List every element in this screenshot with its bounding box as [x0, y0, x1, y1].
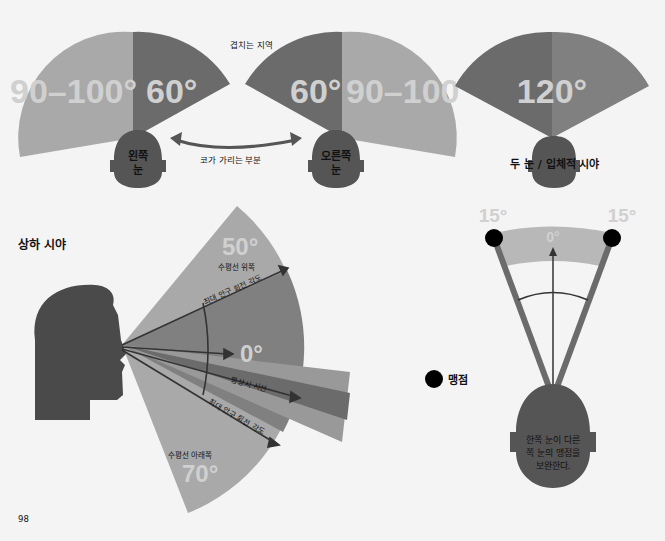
- nose-block-label: 코가 가리는 부분: [200, 155, 261, 165]
- right-eye-label-line2: 눈: [331, 164, 341, 177]
- binocular-caption: 두 눈 / 입체적 시야: [510, 157, 599, 171]
- center-angle-label: 0°: [240, 340, 263, 367]
- left-inner-angle-label: 60°: [146, 72, 197, 110]
- overlap-area-label: 겹치는 지역: [230, 40, 273, 50]
- left-eye-label-line2: 눈: [133, 164, 143, 177]
- right-eye-label-line1: 오른쪽: [321, 150, 351, 163]
- page-number: 98: [18, 514, 29, 524]
- left-blind-angle-label: 15°: [479, 205, 508, 226]
- right-blind-angle-label: 15°: [608, 205, 637, 226]
- nose-block-arrow: [170, 132, 302, 148]
- below-caption: 수평선 아래쪽: [168, 450, 212, 460]
- head-text-line1: 한쪽 눈이 다른: [526, 435, 580, 445]
- right-eye-field: 60° 90–100°: [245, 32, 473, 157]
- right-inner-angle-label: 60°: [290, 72, 341, 110]
- blind-center-angle-label: 0°: [546, 229, 559, 245]
- blind-spot-legend-label: 맹점: [448, 373, 468, 387]
- head-text-line3: 보완한다.: [536, 461, 571, 471]
- above-angle-label: 50°: [222, 233, 258, 260]
- binocular-angle-label: 120°: [517, 72, 587, 110]
- vertical-field-title: 상하 시야: [18, 237, 66, 252]
- head-text-line2: 쪽 눈의 맹점을: [526, 447, 580, 458]
- left-eye-field: 90–100° 60°: [10, 32, 230, 157]
- blind-spot-left-dot: [485, 229, 503, 247]
- binocular-field: 120°: [455, 32, 649, 138]
- blind-spot-legend-icon: [425, 370, 443, 388]
- blind-spot-right-dot: [603, 229, 621, 247]
- right-outer-angle-label: 90–100°: [346, 72, 473, 110]
- vision-diagram-page: 90–100° 60° 왼쪽 눈 겹치는 지역 코가 가리는 부분 60° 90…: [0, 0, 665, 541]
- below-angle-label: 70°: [182, 460, 218, 487]
- left-outer-angle-label: 90–100°: [10, 72, 137, 110]
- above-caption: 수평선 위쪽: [218, 262, 255, 272]
- left-eye-label-line1: 왼쪽: [128, 149, 148, 163]
- head-profile: [34, 285, 126, 420]
